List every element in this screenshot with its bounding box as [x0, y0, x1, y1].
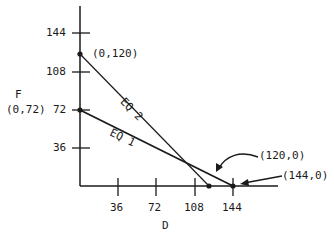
- x-axis-label: D: [162, 220, 169, 232]
- point-label-0-72: (0,72): [6, 104, 46, 116]
- point-0-120: [77, 51, 82, 56]
- x-tick-label-144: 144: [222, 202, 242, 214]
- arrow-144-0: [244, 176, 282, 183]
- y-tick-label-72: 72: [53, 104, 66, 116]
- point-120-0: [206, 183, 211, 188]
- x-tick-label-108: 108: [184, 202, 204, 214]
- y-tick-label-108: 108: [46, 66, 66, 78]
- y-axis-label: F: [15, 89, 22, 101]
- point-144-0: [230, 183, 235, 188]
- arrow-120-0: [219, 154, 258, 168]
- point-label-120-0: (120,0): [259, 150, 305, 162]
- y-tick-label-36: 36: [53, 142, 66, 154]
- x-tick-label-36: 36: [110, 202, 123, 214]
- point-label-144-0: (144,0): [282, 170, 328, 182]
- point-0-72: [77, 107, 82, 112]
- eq1-line: [80, 110, 233, 186]
- y-tick-label-144: 144: [46, 27, 66, 39]
- arrow-head-144-0: [240, 179, 249, 186]
- point-label-0-120: (0,120): [92, 48, 138, 60]
- x-tick-label-72: 72: [148, 202, 161, 214]
